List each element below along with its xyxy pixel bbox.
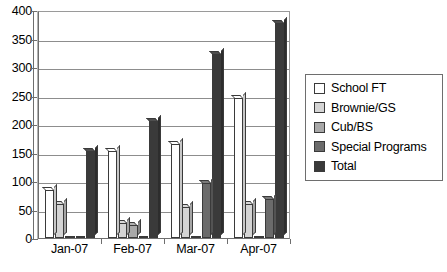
bar-side-face [274, 193, 277, 235]
legend-swatch-icon [314, 161, 325, 172]
legend-swatch-icon [314, 83, 325, 94]
x-axis-tick-label: Jan-07 [51, 243, 88, 256]
chart-legend: School FTBrownie/GSCub/BSSpecial Program… [305, 74, 443, 181]
legend-item-label: Brownie/GS [331, 102, 396, 115]
legend-item: Cub/BS [314, 121, 436, 134]
bar-series-group [39, 12, 289, 238]
legend-item-label: Cub/BS [331, 121, 373, 134]
y-axis-tick-label: 200 [12, 119, 32, 132]
y-axis-tick-label: 300 [12, 62, 32, 75]
legend-item: Special Programs [314, 141, 436, 154]
bar-group [234, 12, 285, 238]
bar [139, 237, 148, 239]
y-axis-tick-labels: 050100150200250300350400 [0, 0, 32, 250]
plot-area [38, 11, 290, 239]
x-axis-tick-mark [290, 239, 291, 244]
bar [202, 183, 211, 238]
legend-item-label: School FT [331, 82, 386, 95]
bar-front-face [149, 121, 158, 238]
legend-swatch-icon [314, 122, 325, 133]
chart-container: 050100150200250300350400 Jan-07Feb-07Mar… [0, 0, 447, 272]
bar-side-face [158, 115, 161, 235]
bar-side-face [95, 145, 98, 235]
y-axis-tick-label: 350 [12, 33, 32, 46]
bar-side-face [284, 17, 287, 235]
bar-front-face [76, 236, 85, 238]
x-axis-tick-label: Feb-07 [113, 243, 151, 256]
bar-front-face [86, 151, 95, 238]
bar-group [171, 12, 222, 238]
bar [76, 237, 85, 239]
bar-front-face [139, 236, 148, 238]
legend-item-label: Total [331, 160, 356, 173]
bar-side-face [190, 201, 193, 235]
legend-item: School FT [314, 82, 436, 95]
bar-front-face [234, 98, 243, 238]
bar [234, 98, 243, 238]
bar [45, 190, 54, 238]
bar-front-face [171, 144, 180, 238]
plot-area-wrapper: 050100150200250300350400 Jan-07Feb-07Mar… [0, 0, 300, 272]
bar-side-face [127, 217, 130, 235]
legend-item-label: Special Programs [331, 141, 426, 154]
bar [65, 237, 74, 239]
y-axis-tick-label: 250 [12, 90, 32, 103]
bar-side-face [253, 198, 256, 235]
bar-front-face [191, 236, 200, 238]
y-axis-tick-mark [30, 239, 38, 240]
bar-group [45, 12, 96, 238]
bar [265, 199, 274, 238]
bar-side-face [221, 48, 224, 235]
bar-side-face [211, 177, 214, 235]
legend-swatch-icon [314, 141, 325, 152]
bar-front-face [265, 199, 274, 238]
bar-side-face [243, 92, 246, 235]
x-axis-tick-labels: Jan-07Feb-07Mar-07Apr-07 [38, 243, 290, 265]
bar [171, 144, 180, 238]
bar-side-face [64, 198, 67, 235]
bar [191, 237, 200, 239]
y-axis-tick-label: 100 [12, 176, 32, 189]
bar [86, 151, 95, 238]
bar-front-face [65, 236, 74, 238]
legend-swatch-icon [314, 102, 325, 113]
legend-item: Brownie/GS [314, 102, 436, 115]
bar-side-face [180, 138, 183, 235]
bar [108, 151, 117, 238]
x-axis-tick-label: Apr-07 [240, 243, 276, 256]
bar-side-face [138, 219, 141, 235]
bar-group [108, 12, 159, 238]
bar-front-face [254, 236, 263, 238]
bar-front-face [45, 190, 54, 238]
x-axis-tick-label: Mar-07 [176, 243, 214, 256]
bar-side-face [54, 184, 57, 235]
bar-front-face [108, 151, 117, 238]
y-axis-tick-label: 400 [12, 5, 32, 18]
bar [149, 121, 158, 238]
bar [254, 237, 263, 239]
legend-item: Total [314, 160, 436, 173]
bar-front-face [202, 183, 211, 238]
bar-side-face [117, 145, 120, 235]
y-axis-tick-label: 150 [12, 147, 32, 160]
